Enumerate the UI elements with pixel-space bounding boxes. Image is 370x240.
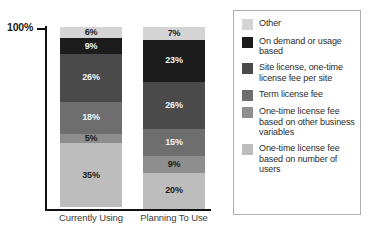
- legend-swatch-icon: [242, 63, 253, 74]
- legend-item[interactable]: On demand or usage based: [242, 36, 356, 57]
- legend-item-label: One-time license fee based on other busi…: [259, 106, 356, 138]
- y-axis-top-tick-label: 100%: [7, 21, 33, 33]
- x-axis-category-label-currently-using: Currently Using: [52, 212, 130, 223]
- legend-swatch-icon: [242, 19, 253, 30]
- legend: OtherOn demand or usage basedSite licens…: [233, 10, 361, 215]
- bar-segment[interactable]: 26%: [60, 54, 122, 101]
- legend-swatch-icon: [242, 90, 253, 101]
- bar-planning-to-use[interactable]: 7%23%26%15%9%20%: [143, 27, 205, 209]
- bar-segment[interactable]: 23%: [143, 40, 205, 82]
- bar-segment-value-label: 6%: [85, 28, 98, 37]
- bar-segment[interactable]: 5%: [60, 134, 122, 143]
- bar-segment-value-label: 9%: [168, 160, 181, 169]
- bar-segment-value-label: 9%: [85, 42, 98, 51]
- bar-segment[interactable]: 9%: [143, 156, 205, 172]
- legend-item-label: Other: [259, 18, 281, 29]
- bar-segment-value-label: 26%: [82, 73, 99, 82]
- legend-item[interactable]: One-time license fee based on other busi…: [242, 106, 356, 138]
- legend-item-label: One-time license fee based on number of …: [259, 143, 356, 175]
- legend-swatch-icon: [242, 37, 253, 48]
- bar-segment[interactable]: 7%: [143, 27, 205, 40]
- bar-segment-value-label: 5%: [85, 134, 98, 143]
- bar-segment-value-label: 35%: [82, 171, 99, 180]
- legend-item-label: Site license, one-time license fee per s…: [259, 62, 356, 83]
- legend-item-label: On demand or usage based: [259, 36, 356, 57]
- bar-segment-value-label: 7%: [168, 29, 181, 38]
- bar-currently-using[interactable]: 6%9%26%18%5%35%: [60, 27, 122, 209]
- bar-segment[interactable]: 15%: [143, 129, 205, 156]
- plot-area: 100% 6%9%26%18%5%35% 7%23%26%15%9%20% Cu…: [0, 0, 228, 240]
- legend-item[interactable]: Site license, one-time license fee per s…: [242, 62, 356, 83]
- stacked-bar-chart: 100% 6%9%26%18%5%35% 7%23%26%15%9%20% Cu…: [0, 0, 370, 240]
- bar-segment[interactable]: 20%: [143, 173, 205, 209]
- legend-item-label: Term license fee: [259, 89, 323, 100]
- legend-item[interactable]: One-time license fee based on number of …: [242, 143, 356, 175]
- bar-segment-value-label: 18%: [82, 113, 99, 122]
- bar-segment[interactable]: 26%: [143, 82, 205, 129]
- bar-segment[interactable]: 18%: [60, 102, 122, 135]
- legend-item[interactable]: Term license fee: [242, 89, 356, 101]
- legend-swatch-icon: [242, 144, 253, 155]
- legend-swatch-icon: [242, 107, 253, 118]
- bar-segment[interactable]: 9%: [60, 38, 122, 54]
- x-axis-line: [45, 209, 211, 211]
- bar-segment[interactable]: 6%: [60, 27, 122, 38]
- bar-segment[interactable]: 35%: [60, 143, 122, 207]
- legend-item[interactable]: Other: [242, 18, 356, 30]
- bar-segment-value-label: 26%: [165, 101, 182, 110]
- bar-segment-value-label: 23%: [165, 56, 182, 65]
- y-axis-line: [45, 26, 47, 211]
- bar-segment-value-label: 20%: [165, 186, 182, 195]
- x-axis-category-label-planning-to-use: Planning To Use: [134, 212, 214, 223]
- bar-segment-value-label: 15%: [165, 138, 182, 147]
